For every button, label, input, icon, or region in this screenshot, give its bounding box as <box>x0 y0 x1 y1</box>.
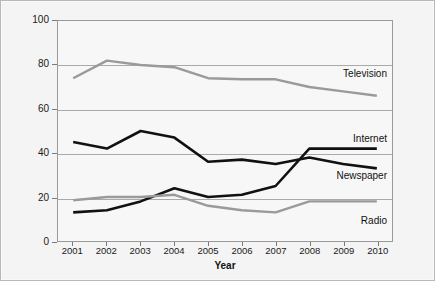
y-tick-label: 20 <box>5 193 49 203</box>
series-label-newspaper: Newspaper <box>336 170 387 181</box>
x-tick-label: 2001 <box>55 245 89 257</box>
x-tick-mark <box>344 242 345 246</box>
x-tick-label: 2007 <box>259 245 293 257</box>
plot-area: TelevisionNewspaperInternetRadio <box>57 20 393 242</box>
series-label-radio: Radio <box>361 215 387 226</box>
x-tick-mark <box>242 242 243 246</box>
x-tick-label: 2004 <box>157 245 191 257</box>
x-axis-title: Year <box>57 260 393 271</box>
x-tick-label: 2006 <box>225 245 259 257</box>
x-tick-label: 2002 <box>89 245 123 257</box>
series-line-internet <box>73 149 377 213</box>
x-tick-label: 2009 <box>327 245 361 257</box>
x-tick-mark <box>208 242 209 246</box>
x-tick-label: 2008 <box>293 245 327 257</box>
x-tick-label: 2003 <box>123 245 157 257</box>
y-tick-label: 0 <box>5 237 49 247</box>
x-tick-mark <box>106 242 107 246</box>
x-tick-label: 2010 <box>361 245 395 257</box>
x-tick-mark <box>140 242 141 246</box>
y-tick-label: 40 <box>5 148 49 158</box>
x-tick-mark <box>310 242 311 246</box>
y-tick-label: 100 <box>5 15 49 25</box>
y-tick-label: 60 <box>5 104 49 114</box>
x-tick-mark <box>276 242 277 246</box>
series-lines <box>58 21 392 241</box>
series-line-radio <box>73 195 377 213</box>
y-tick-label: 80 <box>5 59 49 69</box>
x-tick-mark <box>72 242 73 246</box>
y-tick-mark <box>52 242 57 243</box>
series-label-television: Television <box>343 68 387 79</box>
x-tick-label: 2005 <box>191 245 225 257</box>
series-label-internet: Internet <box>353 133 387 144</box>
chart-figure: Percentage 020406080100 2001200220032004… <box>0 0 435 281</box>
x-tick-mark <box>174 242 175 246</box>
x-tick-mark <box>378 242 379 246</box>
series-line-television <box>73 61 377 96</box>
